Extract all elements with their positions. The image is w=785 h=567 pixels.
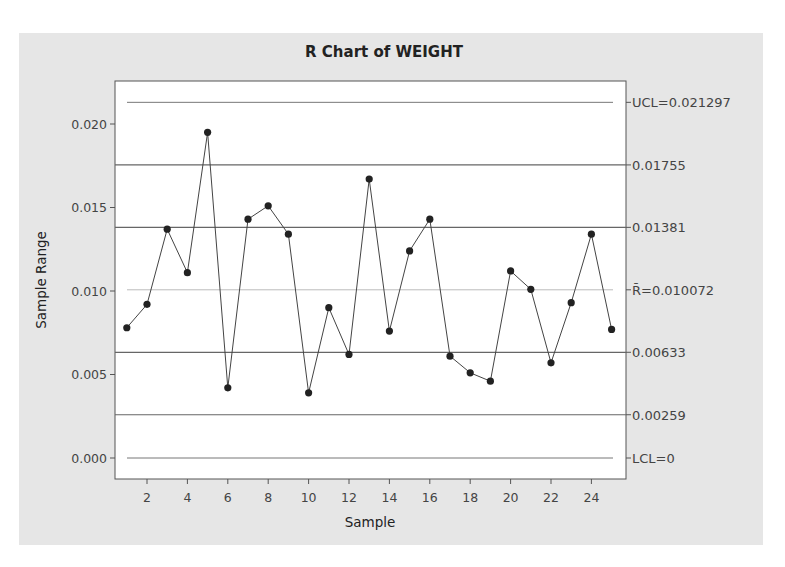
data-point	[164, 226, 171, 233]
control-label: R̄=0.010072	[632, 283, 714, 298]
data-point	[224, 384, 231, 391]
x-tick-label: 2	[143, 490, 151, 505]
data-point	[325, 304, 332, 311]
data-point	[507, 267, 514, 274]
data-point	[547, 359, 554, 366]
data-point	[487, 378, 494, 385]
x-tick-label: 8	[264, 490, 272, 505]
data-point	[285, 231, 292, 238]
y-tick-label: 0.015	[71, 200, 107, 215]
x-tick-label: 6	[224, 490, 232, 505]
data-point	[345, 351, 352, 358]
plot-area	[115, 81, 626, 479]
x-axis: 24681012141618202224	[143, 479, 599, 505]
data-point	[467, 369, 474, 376]
data-point	[123, 324, 130, 331]
control-label: 0.01755	[632, 158, 686, 173]
control-label: 0.00259	[632, 408, 686, 423]
r-chart: R Chart of WEIGHT UCL=0.0212970.017550.0…	[0, 0, 785, 567]
data-point	[527, 286, 534, 293]
data-point	[204, 129, 211, 136]
data-point	[568, 299, 575, 306]
y-tick-label: 0.020	[71, 117, 107, 132]
x-tick-label: 10	[301, 490, 317, 505]
control-label: UCL=0.021297	[632, 95, 731, 110]
control-label: 0.00633	[632, 345, 686, 360]
data-point	[386, 327, 393, 334]
data-point	[265, 202, 272, 209]
data-point	[184, 269, 191, 276]
data-point	[305, 389, 312, 396]
data-point	[143, 301, 150, 308]
x-axis-label: Sample	[345, 514, 396, 530]
data-point	[406, 247, 413, 254]
data-point	[608, 326, 615, 333]
x-tick-label: 4	[183, 490, 191, 505]
data-point	[426, 216, 433, 223]
control-label: 0.01381	[632, 220, 686, 235]
y-axis-label: Sample Range	[33, 231, 49, 329]
x-tick-label: 22	[543, 490, 559, 505]
x-tick-label: 16	[422, 490, 438, 505]
x-tick-label: 18	[462, 490, 478, 505]
y-axis: 0.0000.0050.0100.0150.020	[71, 117, 115, 466]
y-tick-label: 0.000	[71, 451, 107, 466]
y-tick-label: 0.005	[71, 367, 107, 382]
y-tick-label: 0.010	[71, 284, 107, 299]
data-point	[244, 216, 251, 223]
x-tick-label: 14	[381, 490, 397, 505]
control-label: LCL=0	[632, 451, 675, 466]
x-tick-label: 24	[583, 490, 599, 505]
data-point	[588, 231, 595, 238]
x-tick-label: 20	[503, 490, 519, 505]
x-tick-label: 12	[341, 490, 357, 505]
control-limit-labels: UCL=0.0212970.017550.01381R̄=0.0100720.0…	[632, 95, 731, 466]
chart-title: R Chart of WEIGHT	[305, 43, 464, 61]
data-point	[366, 176, 373, 183]
data-point	[446, 353, 453, 360]
